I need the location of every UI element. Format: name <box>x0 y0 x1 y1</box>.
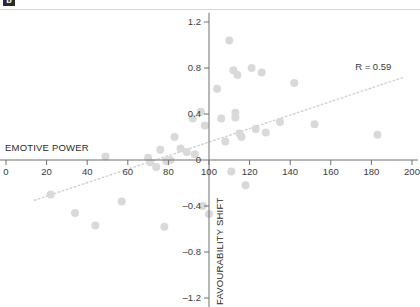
data-point <box>373 131 381 139</box>
y-tick-label: 0.4 <box>188 108 201 119</box>
y-tick-label: –0.4 <box>183 200 202 211</box>
y-tick-label: –0.8 <box>183 246 202 257</box>
x-tick-label: 180 <box>363 166 379 177</box>
x-tick-label: 80 <box>163 166 174 177</box>
data-point <box>101 153 109 161</box>
data-point <box>227 168 235 176</box>
y-tick-label: 0 <box>196 154 201 165</box>
data-point <box>201 122 209 130</box>
data-point <box>248 64 256 72</box>
data-point <box>217 115 225 123</box>
data-point <box>91 222 99 230</box>
data-point <box>231 113 239 121</box>
y-tick-label: –1.2 <box>183 292 202 303</box>
x-tick-label: 0 <box>3 166 8 177</box>
data-point <box>242 181 250 189</box>
data-point <box>225 36 233 44</box>
scatter-plot-figure: b 0204060801001201401601802001.20.80.40–… <box>0 0 420 307</box>
data-point <box>237 133 245 141</box>
data-point <box>262 128 270 136</box>
data-point <box>311 120 319 128</box>
x-tick-label: 120 <box>242 166 258 177</box>
correlation-annotation: R = 0.59 <box>355 61 391 72</box>
data-point <box>71 209 79 217</box>
x-tick-label: 140 <box>282 166 298 177</box>
x-tick-label: 20 <box>41 166 52 177</box>
data-point <box>160 223 168 231</box>
data-point <box>47 191 55 199</box>
y-tick-label: 1.2 <box>188 16 201 27</box>
y-tick-label: 0.8 <box>188 62 201 73</box>
data-point <box>156 146 164 154</box>
trendline <box>34 77 403 200</box>
x-tick-label: 60 <box>123 166 134 177</box>
data-point <box>170 133 178 141</box>
data-point <box>213 85 221 93</box>
data-point <box>183 148 191 156</box>
y-axis-title: FAVOURABILITY SHIFT <box>214 198 225 305</box>
x-axis-title: EMOTIVE POWER <box>5 142 89 153</box>
axis-labels: 0204060801001201401601802001.20.80.40–0.… <box>3 16 420 305</box>
x-tick-label: 200 <box>404 166 420 177</box>
axes <box>0 13 418 307</box>
data-point <box>290 79 298 87</box>
x-tick-label: 100 <box>201 166 217 177</box>
x-tick-label: 160 <box>323 166 339 177</box>
data-point <box>252 125 260 133</box>
data-point <box>276 118 284 126</box>
data-point <box>233 71 241 79</box>
chart-canvas: 0204060801001201401601802001.20.80.40–0.… <box>0 0 420 307</box>
data-point <box>118 197 126 205</box>
data-point <box>152 163 160 171</box>
data-point <box>221 138 229 146</box>
x-tick-label: 40 <box>82 166 93 177</box>
data-point <box>258 69 266 77</box>
